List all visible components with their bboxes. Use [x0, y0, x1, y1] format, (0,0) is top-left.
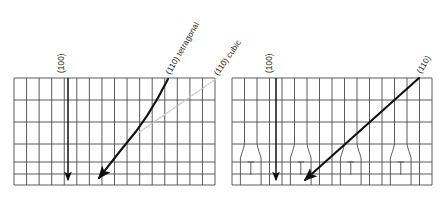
crystal-lattice-figure: (100) (110) tetragonal (110) cubic (100)…	[0, 0, 443, 205]
figure-svg: (100) (110) tetragonal (110) cubic (100)…	[0, 0, 443, 205]
label-100-right: (100)	[265, 53, 274, 73]
label-100-left: (100)	[57, 53, 66, 73]
